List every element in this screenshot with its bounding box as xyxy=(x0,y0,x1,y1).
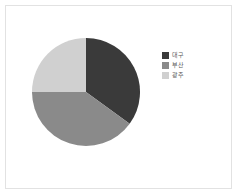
legend-item-label: 대구 xyxy=(172,51,184,59)
pie-slices: 대구 35%부산 40%광주 25% xyxy=(32,38,140,146)
legend-swatch-icon xyxy=(162,52,169,59)
legend-item[interactable]: 부산 xyxy=(162,61,202,69)
legend-item[interactable]: 대구 xyxy=(162,51,202,59)
pie-slice[interactable]: 광주 25% xyxy=(32,38,86,92)
legend-item-label: 광주 xyxy=(172,71,184,79)
chart-legend: 대구부산광주 xyxy=(162,51,202,79)
legend-swatch-icon xyxy=(162,62,169,69)
legend-item-label: 부산 xyxy=(172,61,184,69)
pie-chart[interactable]: 대구 35%부산 40%광주 25% xyxy=(30,36,142,148)
legend-swatch-icon xyxy=(162,72,169,79)
plot-area: 대구 35%부산 40%광주 25% 대구부산광주 xyxy=(0,0,238,195)
chart-canvas: 대구 35%부산 40%광주 25% 대구부산광주 xyxy=(0,0,238,195)
legend-item[interactable]: 광주 xyxy=(162,71,202,79)
